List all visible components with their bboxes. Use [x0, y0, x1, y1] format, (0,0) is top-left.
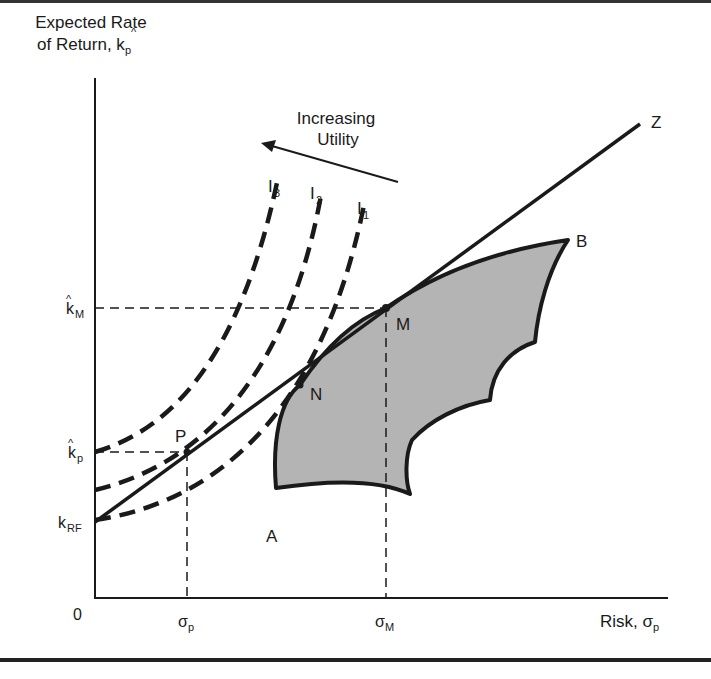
- svg-text:I: I: [268, 177, 273, 196]
- indifference-curve-I3: [95, 178, 278, 452]
- svg-text:M: M: [385, 621, 394, 633]
- label-N: N: [310, 385, 322, 404]
- label-I1: I 1: [357, 199, 369, 221]
- svg-text:^: ^: [68, 437, 74, 449]
- svg-text:1: 1: [363, 209, 369, 221]
- label-B: B: [576, 232, 587, 251]
- y-axis-title-line2: of Return, kp: [37, 35, 131, 56]
- y-axis-title-hat: ^: [131, 26, 137, 38]
- annotation-line2: Utility: [317, 130, 359, 149]
- label-I2: I 2: [310, 184, 322, 206]
- capital-market-line-diagram: Expected Rate of Return, kp ^ k ^ M k ^ …: [0, 0, 711, 679]
- point-M-marker: [382, 304, 390, 312]
- x-axis-title: Risk, σp: [600, 612, 659, 633]
- svg-text:I: I: [310, 184, 315, 203]
- label-A: A: [266, 527, 278, 546]
- svg-text:p: p: [188, 621, 194, 633]
- svg-text:k: k: [58, 514, 67, 531]
- tick-sigma-M: σ M: [375, 613, 394, 633]
- increasing-utility-arrow: [272, 146, 398, 182]
- svg-text:2: 2: [316, 194, 322, 206]
- svg-text:3: 3: [274, 187, 280, 199]
- svg-text:I: I: [357, 199, 362, 218]
- label-I3: I 3: [268, 177, 280, 199]
- tick-kM: k ^ M: [66, 293, 84, 320]
- tick-kRF: k RF: [58, 514, 82, 534]
- origin-label: 0: [73, 606, 82, 623]
- svg-text:σ: σ: [178, 613, 188, 630]
- svg-text:^: ^: [66, 293, 72, 305]
- svg-text:M: M: [75, 308, 84, 320]
- tick-kp: k ^ p: [68, 437, 83, 464]
- feasible-set-region: [275, 240, 568, 494]
- tick-sigma-p: σ p: [178, 613, 194, 633]
- annotation-line1: Increasing: [297, 109, 375, 128]
- svg-text:p: p: [77, 452, 83, 464]
- svg-text:RF: RF: [67, 522, 82, 534]
- point-P-marker: [184, 449, 191, 456]
- arrow-head-icon: [261, 140, 276, 152]
- label-Z: Z: [651, 113, 661, 132]
- svg-text:σ: σ: [375, 613, 385, 630]
- point-N-marker: [297, 382, 304, 389]
- label-P: P: [175, 427, 186, 446]
- label-M: M: [396, 315, 410, 334]
